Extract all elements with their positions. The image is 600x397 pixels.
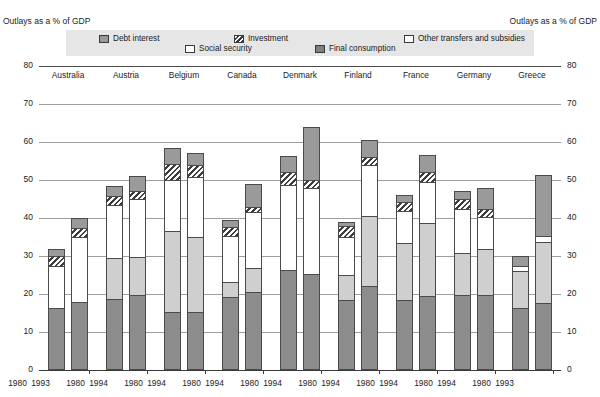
bar-segment-debt [222,220,240,227]
legend-label-other-transfers: Other transfers and subsidies [418,34,525,43]
country-label-canada: Canada [213,70,271,80]
x-axis-tick [379,370,380,374]
bar-france-1980[interactable] [396,195,414,370]
bar-canada-1980[interactable] [222,220,240,370]
debt-interest-swatch-icon [99,35,109,43]
x-axis-year-label: 1993 [490,378,520,388]
country-label-germany: Germany [445,70,503,80]
x-axis-year-label: 1994 [84,378,114,388]
bar-australia-1993[interactable] [71,218,89,370]
bar-segment-other [454,209,472,252]
bar-segment-invest [187,165,205,177]
bar-finland-1994[interactable] [361,140,379,370]
y-axis-tick-left-70: 70 [3,99,33,108]
bar-france-1994[interactable] [419,155,437,370]
country-label-australia: Australia [39,70,97,80]
bar-austria-1980[interactable] [106,186,124,370]
country-label-belgium: Belgium [155,70,213,80]
bar-segment-invest [129,191,147,199]
bar-segment-invest [477,209,495,218]
bar-finland-1980[interactable] [338,222,356,370]
y-axis-tick-left-40: 40 [3,213,33,222]
x-axis-tick [205,370,206,374]
bar-segment-other [48,266,66,308]
bar-segment-invest [245,207,263,212]
bar-segment-other [129,199,147,257]
bar-australia-1980[interactable] [48,249,66,370]
bar-germany-1994[interactable] [477,188,495,370]
bar-segment-debt [129,176,147,191]
legend-label-debt-interest: Debt interest [113,34,159,43]
gridline-50 [39,180,561,181]
bar-segment-other [106,205,124,258]
bar-segment-debt [187,153,205,165]
bar-greece-1980[interactable] [512,256,530,370]
bar-segment-other [535,236,553,242]
bar-germany-1980[interactable] [454,191,472,370]
y-axis-tick-left-50: 50 [3,175,33,184]
bar-segment-other [303,188,321,274]
bar-austria-1994[interactable] [129,176,147,370]
bar-segment-invest [280,172,298,185]
bar-segment-debt [106,186,124,196]
y-axis-tick-left-30: 30 [3,251,33,260]
gridline-80 [39,66,561,67]
country-label-denmark: Denmark [271,70,329,80]
bar-segment-other [512,266,530,271]
country-label-france: France [387,70,445,80]
y-axis-tick-left-80: 80 [3,61,33,70]
bar-segment-other [280,185,298,271]
bar-greece-1993[interactable] [535,175,553,370]
bar-segment-other [338,237,356,275]
bar-segment-other [477,217,495,249]
bar-segment-debt [280,156,298,172]
bar-segment-final [245,292,263,370]
y-axis-tick-right-20: 20 [567,289,597,298]
bar-segment-final [71,302,89,370]
y-axis-tick-left-60: 60 [3,137,33,146]
x-axis-tick [89,370,90,374]
bar-segment-other [396,211,414,243]
country-label-greece: Greece [503,70,561,80]
bar-segment-debt [48,249,66,256]
bar-segment-social [222,282,240,297]
bar-segment-invest [71,228,89,237]
bar-segment-final [338,300,356,370]
bar-segment-social [361,216,379,286]
bar-belgium-1994[interactable] [187,153,205,370]
chart-legend: Debt interest Social security Investment… [66,30,534,56]
bar-segment-debt [396,195,414,201]
legend-label-investment: Investment [248,34,288,43]
x-axis-tick [437,370,438,374]
bar-segment-social [454,253,472,295]
bar-denmark-1980[interactable] [280,156,298,370]
bar-segment-final [303,274,321,370]
bar-canada-1994[interactable] [245,184,263,370]
bar-segment-other [361,165,379,216]
bar-segment-social [512,271,530,307]
bar-segment-final [396,300,414,370]
bar-segment-final [187,312,205,370]
bar-denmark-1994[interactable] [303,127,321,370]
bar-segment-debt [245,184,263,208]
x-axis-tick [321,370,322,374]
bar-segment-final [48,308,66,370]
left-axis-caption: Outlays as a % of GDP [3,16,90,26]
y-axis-tick-left-20: 20 [3,289,33,298]
bar-belgium-1980[interactable] [164,148,182,370]
final-consumption-swatch-icon [315,45,325,53]
x-axis-tick [553,370,554,374]
bar-segment-social [187,237,205,313]
bar-chart-plot-area: 0010102020303040405050606070708080 [39,66,561,370]
bar-segment-social [245,268,263,293]
bar-segment-debt [71,218,89,228]
x-axis-tick [147,370,148,374]
bar-segment-debt [454,191,472,198]
bar-segment-final [106,299,124,370]
bar-segment-debt [164,148,182,164]
bar-segment-debt [361,140,379,157]
y-axis-tick-left-0: 0 [3,365,33,374]
legend-item-investment: Investment [234,34,288,43]
bar-segment-other [187,177,205,236]
y-axis-tick-left-10: 10 [3,327,33,336]
